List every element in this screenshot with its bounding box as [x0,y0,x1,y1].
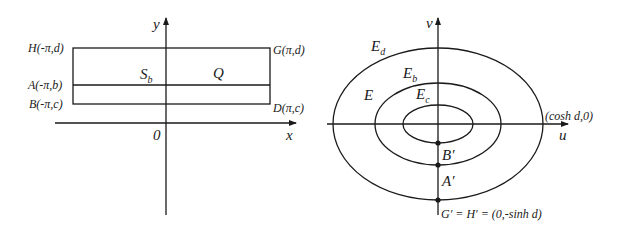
v-axis-label: v [426,15,433,31]
point-gh-prime-dot [435,197,440,202]
diagram-canvas: y x 0 H(-π,d) A(-π,b) B(-π,c) G(π,d) D(π… [0,0,639,234]
cosh-point-label: (cosh d,0) [545,109,593,123]
ellipse-ec-label: Ec [415,86,430,105]
origin-label: 0 [153,127,161,143]
point-b-prime-dot [435,140,440,145]
point-g-label: G(π,d) [273,43,305,57]
point-d-label: D(π,c) [272,101,304,115]
point-a-prime-dot [435,162,440,167]
region-s-label: Sb [140,66,153,85]
region-e-label: E [363,87,373,103]
point-b-label: B(-π,c) [29,97,63,111]
rectangle-region [73,48,270,104]
gh-prime-label: G′ = H′ = (0,-sinh d) [441,207,542,221]
ellipse-ed-label: Ed [370,38,386,57]
point-h-label: H(-π,d) [27,41,64,55]
x-axis-label: x [285,127,293,143]
region-q-label: Q [213,65,224,81]
point-a-label: A(-π,b) [27,78,62,92]
y-axis-label: y [151,16,160,32]
u-axis-label: u [559,127,567,143]
a-prime-label: A′ [441,173,455,189]
ellipse-eb-label: Eb [402,65,417,84]
b-prime-label: B′ [442,147,455,163]
left-panel [55,18,296,215]
